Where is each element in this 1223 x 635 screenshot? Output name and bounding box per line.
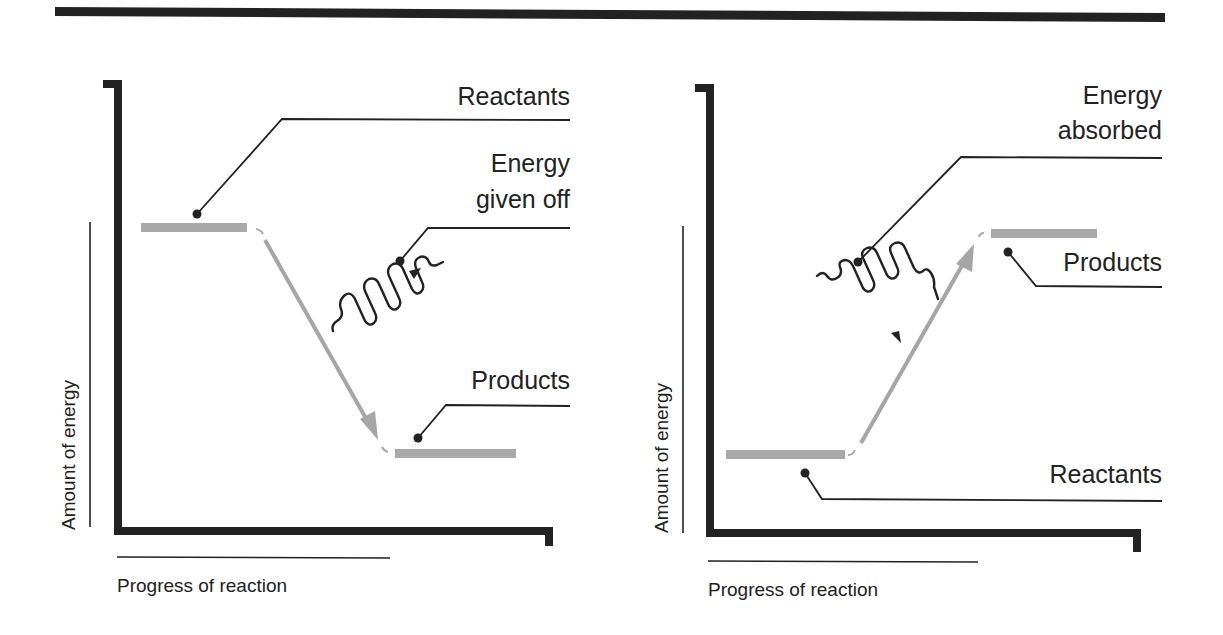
energy-absorbed-leader-dot: [854, 258, 863, 267]
energy-drop-arrow: [265, 240, 378, 440]
reactants-leader-dot: [193, 210, 202, 219]
energy-diagrams: Amount of energy Progress of reaction Re…: [0, 0, 1223, 635]
x-axis-label: Progress of reaction: [117, 575, 287, 596]
y-axis-label: Amount of energy: [651, 383, 672, 533]
wavy-arrow-outward-icon: [333, 257, 444, 331]
reactants-label: Reactants: [457, 82, 570, 110]
reactants-dash: [848, 450, 855, 455]
energy-absorbed-label-line2: absorbed: [1058, 116, 1162, 144]
panel-exothermic: Amount of energy Progress of reaction Re…: [58, 82, 570, 596]
products-dash: [382, 447, 388, 452]
reactants-leader-dot: [801, 469, 810, 478]
products-leader-dot: [1004, 248, 1013, 257]
wavy-arrow-inward-icon: [817, 243, 938, 343]
reactants-dash: [256, 229, 263, 234]
products-leader: [418, 405, 570, 438]
products-level-bar: [395, 449, 516, 458]
reactants-level-bar: [726, 450, 845, 459]
x-axis-label-line: [117, 557, 390, 558]
energy-absorbed-label-line1: Energy: [1083, 81, 1163, 109]
x-axis-label-line: [708, 561, 978, 562]
top-rule: [55, 7, 1165, 22]
products-label: Products: [471, 366, 570, 394]
reactants-label: Reactants: [1049, 460, 1162, 488]
energy-given-off-label-line1: Energy: [491, 149, 571, 177]
products-level-bar: [991, 229, 1097, 238]
reactants-level-bar: [141, 223, 247, 232]
x-axis-label: Progress of reaction: [708, 579, 878, 600]
panel-endothermic: Amount of energy Progress of reaction En…: [651, 81, 1162, 600]
products-leader-dot: [414, 434, 423, 443]
energy-given-off-label-line2: given off: [476, 185, 570, 213]
products-dash: [979, 233, 984, 237]
products-label: Products: [1063, 248, 1162, 276]
y-axis-label: Amount of energy: [58, 380, 79, 530]
energy-rise-arrow: [861, 244, 974, 443]
y-axis: [103, 84, 549, 546]
